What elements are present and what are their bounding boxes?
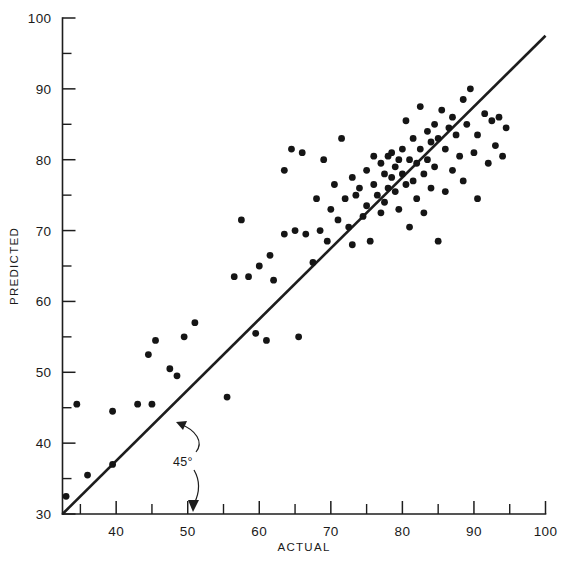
data-point — [413, 195, 420, 202]
data-point — [420, 170, 427, 177]
data-point — [299, 149, 306, 156]
data-point — [327, 206, 334, 213]
data-point — [460, 178, 467, 185]
plot-canvas: 30405060708090100 405060708090100 45° AC… — [0, 0, 562, 573]
data-point — [442, 146, 449, 153]
data-point — [403, 117, 410, 124]
data-point — [474, 195, 481, 202]
data-point — [363, 167, 370, 174]
x-tick-label: 70 — [323, 524, 339, 539]
data-point — [109, 461, 116, 468]
data-point — [474, 132, 481, 139]
data-point — [281, 231, 288, 238]
data-point — [392, 188, 399, 195]
data-point — [224, 394, 231, 401]
y-tick-label: 30 — [36, 507, 52, 522]
data-point — [438, 107, 445, 114]
data-point — [406, 224, 413, 231]
x-tick-label: 80 — [394, 524, 410, 539]
angle-label: 45° — [173, 455, 193, 469]
data-point — [428, 185, 435, 192]
data-point — [281, 167, 288, 174]
data-point — [345, 224, 352, 231]
data-point — [431, 121, 438, 128]
data-point — [388, 174, 395, 181]
x-tick-label: 100 — [534, 524, 558, 539]
annotation-arrow-to-axis — [194, 470, 199, 504]
data-point — [63, 493, 70, 500]
data-point — [453, 132, 460, 139]
data-point — [310, 259, 317, 266]
data-point — [267, 252, 274, 259]
data-point — [435, 135, 442, 142]
data-point — [349, 174, 356, 181]
y-axis-ticks — [63, 18, 76, 514]
data-point — [363, 202, 370, 209]
scatter-plot-figure: 30405060708090100 405060708090100 45° AC… — [0, 0, 562, 573]
data-point — [317, 227, 324, 234]
data-point — [338, 135, 345, 142]
data-point — [313, 195, 320, 202]
x-tick-label: 90 — [466, 524, 482, 539]
data-point — [435, 238, 442, 245]
data-point — [381, 170, 388, 177]
data-point — [492, 142, 499, 149]
data-point — [270, 277, 277, 284]
data-point — [295, 333, 302, 340]
data-point — [388, 149, 395, 156]
data-point — [370, 181, 377, 188]
data-point — [488, 117, 495, 124]
x-axis-title: ACTUAL — [277, 541, 330, 553]
data-point — [149, 401, 156, 408]
data-point — [378, 209, 385, 216]
annotation-arrowhead-down — [188, 500, 199, 512]
data-point — [446, 124, 453, 131]
data-point — [370, 153, 377, 160]
data-point — [152, 337, 159, 344]
data-point — [352, 192, 359, 199]
data-point — [335, 217, 342, 224]
data-point — [238, 217, 245, 224]
data-point — [231, 273, 238, 280]
data-point — [417, 146, 424, 153]
annotation-arrowhead-up — [176, 421, 187, 430]
data-point — [424, 128, 431, 135]
data-point — [292, 227, 299, 234]
x-axis-ticks — [80, 501, 545, 514]
x-tick-label: 60 — [251, 524, 267, 539]
data-point — [456, 153, 463, 160]
y-tick-label: 90 — [36, 82, 52, 97]
data-point — [395, 206, 402, 213]
data-point — [331, 181, 338, 188]
data-point — [174, 372, 181, 379]
data-point — [374, 192, 381, 199]
data-point — [320, 156, 327, 163]
y-axis-tick-labels: 30405060708090100 — [28, 11, 52, 522]
data-point — [145, 351, 152, 358]
data-point — [324, 238, 331, 245]
y-tick-label: 60 — [36, 294, 52, 309]
data-point — [378, 160, 385, 167]
data-point — [252, 330, 259, 337]
data-point — [385, 185, 392, 192]
data-point — [403, 181, 410, 188]
data-point — [245, 273, 252, 280]
data-point — [424, 156, 431, 163]
y-tick-label: 50 — [36, 365, 52, 380]
data-point — [349, 241, 356, 248]
data-point — [109, 408, 116, 415]
data-point — [428, 139, 435, 146]
data-point — [256, 263, 263, 270]
data-point — [463, 121, 470, 128]
angle-annotation: 45° — [173, 421, 199, 512]
data-point — [431, 163, 438, 170]
data-point — [166, 365, 173, 372]
data-point — [499, 153, 506, 160]
data-point — [399, 146, 406, 153]
data-point — [410, 135, 417, 142]
data-point — [342, 195, 349, 202]
data-point — [367, 238, 374, 245]
data-point — [381, 199, 388, 206]
data-point — [134, 401, 141, 408]
data-point — [263, 337, 270, 344]
